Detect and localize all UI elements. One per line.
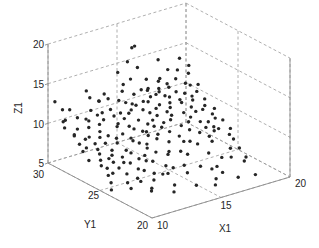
data-point bbox=[96, 113, 99, 116]
data-point bbox=[217, 127, 220, 130]
data-point bbox=[162, 121, 165, 124]
data-point bbox=[151, 118, 154, 121]
data-point bbox=[167, 86, 170, 89]
data-point bbox=[121, 155, 124, 158]
data-point bbox=[148, 111, 151, 114]
data-point bbox=[99, 159, 102, 162]
data-point bbox=[180, 124, 183, 127]
data-point bbox=[221, 118, 224, 121]
data-point bbox=[188, 140, 191, 143]
z-tick-label: 10 bbox=[33, 119, 45, 130]
data-point bbox=[98, 152, 101, 155]
data-point bbox=[184, 82, 187, 85]
data-point bbox=[127, 112, 130, 115]
data-point bbox=[143, 154, 146, 157]
data-point bbox=[116, 122, 119, 125]
data-point bbox=[155, 137, 158, 140]
data-point bbox=[146, 146, 149, 149]
data-point bbox=[97, 100, 100, 103]
grid-lines bbox=[48, 3, 290, 218]
data-point bbox=[215, 165, 218, 168]
data-point bbox=[136, 66, 139, 69]
data-point bbox=[137, 167, 140, 170]
data-point bbox=[212, 125, 215, 128]
data-point bbox=[199, 120, 202, 123]
data-point bbox=[213, 129, 216, 132]
data-point bbox=[136, 177, 139, 180]
data-point bbox=[189, 115, 192, 118]
data-point bbox=[168, 101, 171, 104]
data-point bbox=[121, 90, 124, 93]
data-point bbox=[187, 72, 190, 75]
data-point bbox=[191, 98, 194, 101]
scatter3d-plot: 20 15 10 5 Z1 30 25 20 Y1 10 15 20 X1 bbox=[0, 0, 319, 248]
data-point bbox=[166, 172, 169, 175]
data-point bbox=[203, 97, 206, 100]
data-point bbox=[178, 98, 181, 101]
data-point bbox=[187, 120, 190, 123]
data-point bbox=[138, 141, 141, 144]
data-point bbox=[167, 140, 170, 143]
data-point bbox=[195, 184, 198, 187]
data-point bbox=[109, 108, 112, 111]
data-point bbox=[180, 101, 183, 104]
data-point bbox=[232, 137, 235, 140]
data-point bbox=[145, 130, 148, 133]
data-point bbox=[87, 119, 90, 122]
data-point bbox=[194, 110, 197, 113]
data-point bbox=[165, 82, 168, 85]
data-point bbox=[110, 188, 113, 191]
data-point bbox=[129, 77, 132, 80]
data-point bbox=[169, 118, 172, 121]
data-point bbox=[126, 60, 129, 63]
data-point bbox=[68, 108, 71, 111]
data-point bbox=[196, 83, 199, 86]
data-point bbox=[201, 108, 204, 111]
z-tick-label: 20 bbox=[33, 39, 45, 50]
data-point bbox=[141, 130, 144, 133]
data-point bbox=[199, 165, 202, 168]
data-point bbox=[160, 126, 163, 129]
data-point bbox=[163, 94, 166, 97]
data-point bbox=[145, 142, 148, 145]
data-point bbox=[125, 149, 128, 152]
data-point bbox=[96, 148, 99, 151]
data-point bbox=[81, 150, 84, 153]
data-point bbox=[174, 90, 177, 93]
data-point bbox=[146, 87, 149, 90]
data-point bbox=[129, 187, 132, 190]
data-point bbox=[129, 136, 132, 139]
data-point bbox=[190, 105, 193, 108]
data-point bbox=[132, 127, 135, 130]
data-point bbox=[165, 110, 168, 113]
data-point bbox=[214, 177, 217, 180]
data-point bbox=[142, 100, 145, 103]
data-point bbox=[176, 68, 179, 71]
data-point bbox=[84, 138, 87, 141]
data-point bbox=[110, 149, 113, 152]
y-tick-label: 20 bbox=[137, 220, 149, 231]
x-axis-line bbox=[152, 177, 290, 218]
data-point bbox=[137, 118, 140, 121]
data-point bbox=[154, 107, 157, 110]
data-point bbox=[214, 183, 217, 186]
x-tick-label: 20 bbox=[295, 178, 307, 189]
data-point bbox=[210, 140, 213, 143]
data-point bbox=[146, 122, 149, 125]
data-point bbox=[85, 146, 88, 149]
data-point bbox=[183, 92, 186, 95]
data-point bbox=[87, 159, 90, 162]
data-point bbox=[109, 181, 112, 184]
data-point bbox=[195, 90, 198, 93]
data-point bbox=[154, 150, 157, 153]
data-point bbox=[145, 159, 148, 162]
data-point bbox=[117, 166, 120, 169]
data-point bbox=[129, 161, 132, 164]
data-point bbox=[123, 117, 126, 120]
data-point bbox=[187, 64, 190, 67]
data-point bbox=[229, 147, 232, 150]
data-point bbox=[230, 155, 233, 158]
data-point bbox=[104, 142, 107, 145]
data-point bbox=[186, 153, 189, 156]
data-point bbox=[87, 126, 90, 129]
